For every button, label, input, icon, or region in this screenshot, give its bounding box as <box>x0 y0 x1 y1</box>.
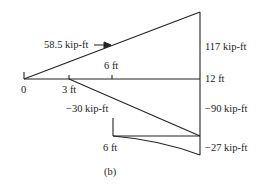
bracket-6ft-label: 6 ft <box>103 143 117 154</box>
origin-label: 0 <box>21 85 26 96</box>
max-moment-label: 117 kip-ft <box>205 42 246 53</box>
left-negative-label: −30 kip-ft <box>66 104 108 115</box>
end-label: 12 ft <box>205 74 225 85</box>
bracket-curve <box>113 136 200 155</box>
tick-3ft-label: 3 ft <box>62 85 76 96</box>
right-negative-label: −90 kip-ft <box>205 104 247 115</box>
slope-label: 58.5 kip-ft <box>44 40 88 51</box>
moment-diagram <box>0 0 268 190</box>
tick-6ft-label-top: 6 ft <box>104 61 118 72</box>
caption: (b) <box>104 167 116 178</box>
bottom-negative-label: −27 kip-ft <box>205 143 247 154</box>
